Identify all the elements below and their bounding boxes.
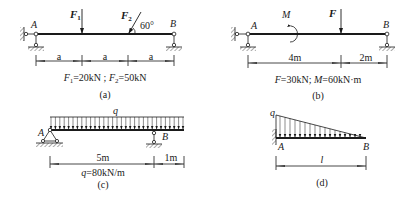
ground-hatch-B-b [379,47,395,51]
force-F2-label: F2 [120,9,132,23]
pin-B-b [385,32,389,36]
point-label-A-c: A [37,127,45,138]
force-F-label: F [328,7,337,19]
dim-label-a-1: a [57,51,62,62]
ground-pin-B-c [152,140,155,143]
moment-label-M: M [281,9,291,20]
point-label-A-b: A [250,20,258,31]
pin-A-a [34,32,38,36]
figure-c: q A B 5m 1m q=80kN/m (c) [36,105,184,191]
pin-B-c [152,131,155,134]
given-values-c: q=80kN/m [81,167,125,178]
dim-label-c-1: 5m [97,152,110,163]
ground-hatch-a [28,47,44,51]
wall-hatch-a [20,27,24,41]
ground-pin-B-b [385,43,388,46]
point-label-A-d: A [277,141,285,152]
caption-d: (d) [316,177,328,189]
given-values-b: F=30kN; M=60kN·m [274,74,362,85]
point-label-B-a: B [170,18,176,29]
wall-pin-b [235,32,238,35]
ground-pin-a [34,43,37,46]
point-label-B-b: B [383,19,389,30]
ground-hatch-B-c [146,144,162,148]
udl-arrows [51,117,183,129]
caption-a: (a) [99,89,110,101]
pin-B-a [172,32,176,36]
ground-hatch-b [240,47,256,51]
dim-label-a-3: a [149,51,154,62]
dim-label-b-1: 4m [289,52,302,63]
ground-pin-left-A-c [41,139,44,142]
beam-diagrams: F1 F2 60° A B a a a F1=20kN ; F2=50kN (a… [0,0,414,205]
figure-a: F1 F2 60° A B a a a F1=20kN ; F2=50kN (a… [20,8,182,101]
given-values-a: F1=20kN ; F2=50kN [63,72,147,85]
ground-pin-right-A-c [55,139,58,142]
pin-A-c [48,128,51,131]
ground-pin-B-a [172,43,175,46]
load-label-q-d: q [270,107,275,118]
dim-label-c-2: 1m [165,152,178,163]
point-label-A-a: A [30,19,38,30]
dim-label-a-2: a [103,51,108,62]
triangular-load-edge [276,115,366,138]
caption-b: (b) [312,90,324,102]
point-label-B-c: B [162,131,168,142]
wall-hatch-d [272,129,276,145]
angle-label-60: 60° [140,20,154,31]
ground-pin-b [246,43,249,46]
figure-d: q A B l (d) [270,107,369,189]
force-F1-label: F1 [69,8,81,22]
dim-label-b-2: 2m [360,52,373,63]
dim-label-d: l [321,154,324,165]
ground-hatch-B-a [166,47,182,51]
ground-hatch-A-c [36,143,63,147]
load-label-q-c: q [113,105,118,116]
pin-A-b [246,32,250,36]
wall-hatch-b [231,27,235,41]
point-label-B-d: B [363,141,369,152]
caption-c: (c) [97,179,108,191]
wall-pin-a [24,32,27,35]
figure-b: M F A B 4m 2m F=30kN; M=60kN·m (b) [231,7,395,102]
